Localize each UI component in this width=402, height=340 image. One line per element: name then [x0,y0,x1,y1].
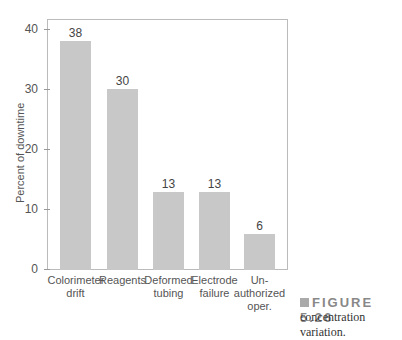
y-tick-10 [44,209,50,210]
bar-5 [244,234,275,270]
y-tick-0 [44,269,50,270]
y-tick-label-20: 20 [8,142,38,156]
y-tick-label-0: 0 [8,262,38,276]
y-tick-30 [44,89,50,90]
bar-2 [107,89,138,270]
bar-value-label: 38 [56,26,96,40]
bar-value-label: 13 [149,177,189,191]
y-tick-label-30: 30 [8,82,38,96]
y-tick-label-10: 10 [8,202,38,216]
category-label: Un-authorizedoper. [232,274,288,313]
bar-4 [199,192,230,270]
square-bullet-icon [300,298,309,307]
y-tick-label-40: 40 [8,22,38,36]
bar-value-label: 13 [195,177,235,191]
figure-caption: concentration variation. [300,310,402,340]
y-tick-20 [44,149,50,150]
y-tick-40 [44,29,50,30]
bar-3 [153,192,184,270]
bar-1 [60,41,91,270]
bar-value-label: 6 [240,219,280,233]
bar-value-label: 30 [103,74,143,88]
